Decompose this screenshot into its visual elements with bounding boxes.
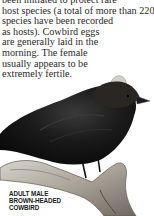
text-line: morning. The female <box>2 48 154 59</box>
caption-line: COWBIRD <box>9 204 61 211</box>
body-paragraph: been initiated to protect rare host spec… <box>2 0 154 80</box>
figure-caption: ADULT MALE BROWN-HEADED COWBIRD <box>9 190 61 212</box>
caption-line: BROWN-HEADED <box>9 197 61 204</box>
caption-line: ADULT MALE <box>9 190 61 197</box>
